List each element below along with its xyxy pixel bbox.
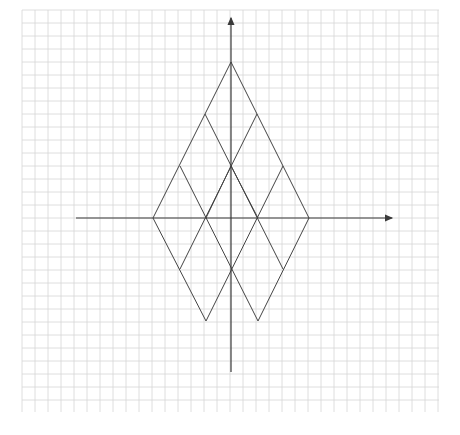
rhombus-edge xyxy=(206,166,283,321)
coordinate-axes xyxy=(76,18,392,372)
rhombus-edge xyxy=(180,166,258,321)
diagram-canvas xyxy=(0,0,460,435)
